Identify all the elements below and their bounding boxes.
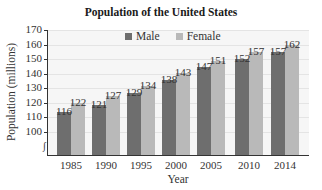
y-tick-label: 100 — [14, 126, 42, 137]
y-tick-label: 160 — [14, 39, 42, 50]
y-tick-label: 170 — [14, 24, 42, 35]
x-tick-label: 1985 — [51, 159, 91, 171]
y-tick — [44, 74, 48, 75]
female-swatch — [176, 33, 183, 40]
legend-label-male: Male — [136, 30, 160, 42]
value-label: 162 — [277, 39, 307, 50]
x-axis — [47, 155, 309, 156]
y-tick — [44, 117, 48, 118]
bar-male-2005 — [197, 67, 211, 155]
chart-title: Population of the United States — [0, 6, 322, 18]
bar-female-2014 — [285, 45, 299, 155]
y-tick-label: 150 — [14, 53, 42, 64]
y-tick-label: 130 — [14, 82, 42, 93]
bar-male-1990 — [92, 105, 106, 155]
x-tick-label: 2000 — [156, 159, 196, 171]
y-tick-label: 140 — [14, 68, 42, 79]
legend-label-female: Female — [187, 30, 221, 42]
axis-break-icon: ∫ — [43, 140, 46, 151]
x-tick-label: 2010 — [229, 159, 269, 171]
male-swatch — [125, 33, 132, 40]
x-tick-label: 2005 — [191, 159, 231, 171]
legend-item-male: Male — [125, 30, 160, 42]
x-axis-title: Year — [47, 173, 309, 185]
legend-item-female: Female — [176, 30, 221, 42]
y-axis-title: Population (millions) — [5, 37, 17, 147]
bar-female-2005 — [211, 61, 225, 155]
bar-male-2010 — [235, 59, 249, 155]
y-tick — [44, 132, 48, 133]
bar-female-2010 — [249, 52, 263, 155]
x-tick-label: 2014 — [265, 159, 305, 171]
gridline — [47, 59, 309, 60]
y-tick — [44, 103, 48, 104]
bar-male-1985 — [57, 112, 71, 155]
x-tick-label: 1995 — [121, 159, 161, 171]
y-axis — [47, 30, 48, 155]
legend: Male Female — [125, 30, 221, 42]
bar-male-2014 — [271, 52, 285, 155]
bar-female-2000 — [176, 73, 190, 155]
y-tick — [44, 88, 48, 89]
y-tick-label: 110 — [14, 111, 42, 122]
y-tick — [44, 59, 48, 60]
y-tick-label: 120 — [14, 97, 42, 108]
y-tick — [44, 45, 48, 46]
bar-male-1995 — [127, 93, 141, 155]
x-tick-label: 1990 — [86, 159, 126, 171]
bar-male-2000 — [162, 80, 176, 155]
y-tick — [44, 30, 48, 31]
